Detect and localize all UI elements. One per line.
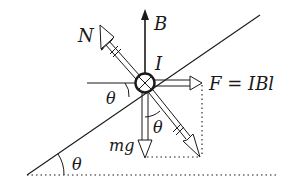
conductor-into-page-icon	[136, 74, 155, 93]
incline-angle-arc	[58, 154, 64, 175]
conductor-angle-arc	[125, 83, 129, 97]
label-n: N	[77, 25, 95, 46]
b-field-arrowhead	[141, 9, 149, 20]
label-theta-conductor: θ	[106, 89, 116, 108]
label-f: F = IBl	[208, 73, 274, 94]
magnetic-force-arrow	[155, 76, 202, 90]
label-mg: mg	[109, 136, 134, 155]
label-theta-mg: θ	[153, 118, 163, 137]
label-theta-incline: θ	[72, 155, 82, 174]
weight-arrow	[138, 93, 152, 158]
normal-force-arrow	[100, 25, 140, 79]
free-body-diagram: B N I F = IBl mg θ θ θ	[0, 0, 302, 180]
mg-angle-arc	[145, 111, 160, 117]
label-i: I	[154, 53, 163, 74]
label-b: B	[153, 13, 167, 34]
